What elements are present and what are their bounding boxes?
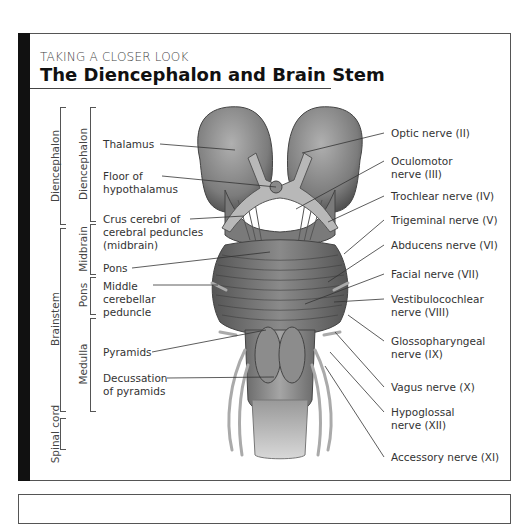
label-hypoglossal-nerve: Hypoglossalnerve (XII) [391,406,455,432]
label-thalamus: Thalamus [103,138,154,151]
label-middle-cerebellar-peduncle: Middlecerebellarpeduncle [103,280,156,319]
label-optic-nerve: Optic nerve (II) [391,127,470,140]
label-glossopharyngeal-nerve: Glossopharyngealnerve (IX) [391,335,485,361]
label-decussation-of-pyramids: Decussationof pyramids [103,372,167,398]
label-trigeminal-nerve: Trigeminal nerve (V) [391,214,498,227]
label-facial-nerve: Facial nerve (VII) [391,268,479,281]
label-trochlear-nerve: Trochlear nerve (IV) [391,190,494,203]
label-abducens-nerve: Abducens nerve (VI) [391,239,498,252]
label-accessory-nerve: Accessory nerve (XI) [391,451,499,464]
label-crus-cerebri: Crus cerebri ofcerebral peduncles(midbra… [103,213,203,252]
label-pons: Pons [103,262,128,275]
label-floor-of-hypothalamus: Floor ofhypothalamus [103,170,178,196]
label-vestibulocochlear-nerve: Vestibulocochlearnerve (VIII) [391,293,484,319]
label-oculomotor-nerve: Oculomotornerve (III) [391,155,453,181]
label-pyramids: Pyramids [103,346,152,359]
label-vagus-nerve: Vagus nerve (X) [391,381,475,394]
